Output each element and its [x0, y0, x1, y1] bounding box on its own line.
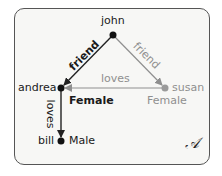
node-andrea-label: andrea: [18, 82, 56, 94]
node-john-label: john: [101, 15, 125, 27]
node-bill-dot: [58, 138, 65, 145]
node-john-dot: [110, 32, 117, 39]
structure-label: 𝒜: [185, 134, 199, 152]
node-susan-attribute: Female: [147, 95, 187, 107]
node-susan-dot: [162, 85, 169, 92]
node-andrea-attribute: Female: [69, 95, 114, 107]
node-susan-label: susan: [172, 82, 204, 94]
node-andrea-dot: [58, 85, 65, 92]
node-bill-label: bill: [38, 135, 54, 147]
node-bill-attribute: Male: [69, 135, 95, 147]
edge-label-andrea-bill: loves: [44, 100, 56, 129]
edge-label-susan-andrea: loves: [101, 73, 130, 85]
